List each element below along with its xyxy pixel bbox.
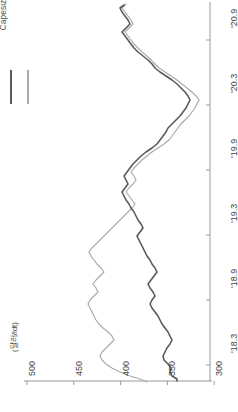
plot-area — [0, 0, 238, 412]
date-tick-label: '20.9 — [212, 28, 238, 52]
price-tick-text: 400 — [121, 361, 131, 387]
time-axis-labels: '20.9'20.3'19.9'19.3'18.9'18.3 — [212, 0, 238, 412]
price-tick-text: 450 — [74, 361, 84, 387]
time-tick-marks — [206, 40, 210, 365]
date-tick-text: '18.3 — [229, 329, 238, 353]
series-line-capesize — [88, 4, 199, 382]
chart-svg — [0, 0, 238, 412]
date-tick-text: '20.3 — [229, 69, 238, 93]
date-tick-label: '19.9 — [212, 158, 238, 182]
price-tick-label: 350 — [152, 386, 182, 412]
date-tick-text: '19.9 — [229, 134, 238, 158]
date-tick-label: '18.9 — [212, 288, 238, 312]
price-tick-text: 500 — [27, 361, 37, 387]
date-tick-text: '18.9 — [229, 264, 238, 288]
price-tick-label: 400 — [106, 386, 136, 412]
date-tick-label: '19.3 — [212, 223, 238, 247]
series-line-vlcc — [120, 5, 190, 381]
date-tick-label: '18.3 — [212, 353, 238, 377]
axis-unit-text: (달러/ldt) — [8, 298, 19, 352]
date-tick-label: '20.3 — [212, 93, 238, 117]
axis-unit-label: (달러/ldt) — [0, 352, 24, 408]
price-tick-text: 350 — [167, 361, 177, 387]
chart-container: VLCC Capesize 500450400350300250 (달러/ldt… — [0, 0, 238, 412]
price-tick-label: 450 — [59, 386, 89, 412]
price-tick-marks — [27, 381, 238, 385]
price-axis-labels: 500450400350300250 — [0, 386, 238, 412]
date-tick-text: '19.3 — [229, 199, 238, 223]
date-tick-text: '20.9 — [229, 4, 238, 28]
